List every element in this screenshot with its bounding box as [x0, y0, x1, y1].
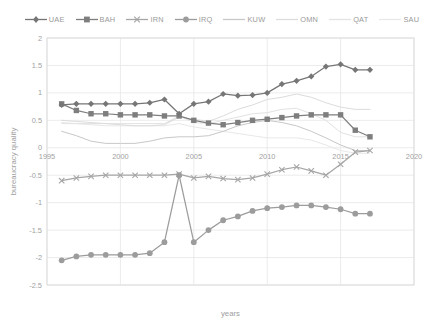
data-point-bah — [338, 112, 343, 117]
data-point-irq — [294, 203, 300, 209]
y-tick-label: 2 — [38, 34, 42, 43]
data-point-irq — [59, 257, 65, 263]
data-point-bah — [206, 120, 211, 125]
data-point-irq — [103, 252, 109, 258]
plot-background — [47, 38, 414, 285]
data-point-bah — [162, 113, 167, 118]
data-point-irq — [73, 254, 79, 260]
line-chart: 21.510.50-0.5-1-1.5-2-2.5199520002005201… — [0, 0, 444, 328]
x-tick-label: 1995 — [39, 152, 55, 161]
data-point-bah — [220, 122, 225, 127]
data-point-irq — [191, 239, 197, 245]
data-point-bah — [279, 115, 284, 120]
y-tick-label: -0.5 — [29, 171, 42, 180]
data-point-irq — [308, 203, 314, 209]
x-tick-label: 2010 — [259, 152, 275, 161]
data-point-bah — [103, 111, 108, 116]
data-point-irq — [206, 227, 212, 233]
data-point-bah — [147, 112, 152, 117]
data-point-bah — [74, 108, 79, 113]
data-point-bah — [250, 118, 255, 123]
chart-page: UAEBAHIRNIRQKUWOMNQATSAU 21.510.50-0.5-1… — [0, 0, 444, 328]
data-point-bah — [191, 118, 196, 123]
data-point-bah — [132, 112, 137, 117]
data-point-irq — [250, 208, 256, 214]
data-point-bah — [367, 134, 372, 139]
x-tick-label: 2000 — [112, 152, 128, 161]
data-point-irq — [220, 217, 226, 223]
data-point-irq — [235, 213, 241, 219]
data-point-bah — [235, 120, 240, 125]
data-point-irq — [132, 252, 138, 258]
data-point-bah — [353, 128, 358, 133]
data-point-bah — [309, 112, 314, 117]
plot-area-wrapper: 21.510.50-0.5-1-1.5-2-2.5199520002005201… — [0, 0, 444, 328]
data-point-irq — [338, 206, 344, 212]
y-tick-label: 1.5 — [32, 61, 42, 70]
y-tick-label: -1 — [35, 198, 42, 207]
data-point-bah — [265, 117, 270, 122]
data-point-irq — [367, 211, 373, 217]
y-tick-label: 0 — [38, 143, 42, 152]
data-point-bah — [294, 113, 299, 118]
x-tick-label: 2005 — [186, 152, 202, 161]
y-tick-label: -2 — [35, 253, 42, 262]
data-point-irq — [323, 204, 329, 210]
data-point-bah — [118, 112, 123, 117]
data-point-irq — [88, 252, 94, 258]
y-tick-label: 1 — [38, 88, 42, 97]
data-point-irq — [118, 252, 124, 258]
data-point-irq — [162, 239, 168, 245]
x-tick-label: 2020 — [406, 152, 422, 161]
data-point-irq — [264, 205, 270, 211]
x-axis-title: years — [221, 309, 240, 318]
data-point-irq — [176, 172, 182, 178]
data-point-irq — [352, 211, 358, 217]
data-point-irq — [147, 250, 153, 256]
data-point-bah — [323, 112, 328, 117]
data-point-bah — [88, 111, 93, 116]
y-axis-title: bureaucracy quality — [9, 128, 18, 196]
y-tick-label: 0.5 — [32, 116, 42, 125]
data-point-irq — [279, 204, 285, 210]
y-tick-label: -2.5 — [29, 281, 42, 290]
y-tick-label: -1.5 — [29, 226, 42, 235]
